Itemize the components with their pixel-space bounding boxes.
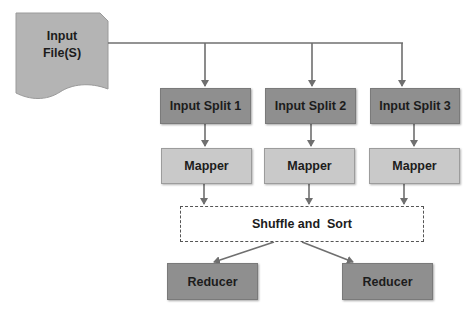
reducer-1: Reducer [167,263,258,300]
input-split-1-label: Input Split 1 [170,99,242,113]
shuffle-and-sort-label: Shuffle and Sort [252,217,352,231]
input-split-3: Input Split 3 [370,88,460,124]
mapper-2: Mapper [264,148,355,184]
input-split-3-label: Input Split 3 [379,99,451,113]
mapper-2-label: Mapper [287,159,331,173]
input-file-label: Input File(S) [16,28,108,62]
input-split-1: Input Split 1 [160,88,251,124]
input-file-label-line2: File(S) [16,45,108,62]
input-split-2: Input Split 2 [265,88,356,124]
input-file-label-line1: Input [16,28,108,45]
mapper-1-label: Mapper [184,159,228,173]
shuffle-and-sort: Shuffle and Sort [180,206,424,242]
mapper-3: Mapper [369,148,460,184]
reducer-2: Reducer [342,263,433,300]
reducer-1-label: Reducer [187,275,237,289]
mapper-1: Mapper [161,148,252,184]
input-split-2-label: Input Split 2 [275,99,347,113]
reducer-2-label: Reducer [362,275,412,289]
mapper-3-label: Mapper [392,159,436,173]
